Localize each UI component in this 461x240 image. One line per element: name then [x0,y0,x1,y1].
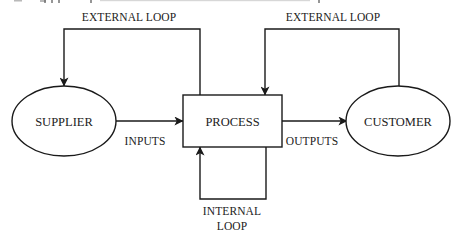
external-loop-left-arrow [64,29,200,95]
customer-label: CUSTOMER [364,115,433,129]
outputs-label: OUTPUTS [286,135,338,147]
external-loop-left: EXTERNAL LOOP [64,11,200,95]
internal-loop-label-line1: INTERNAL [203,205,261,217]
customer-node: CUSTOMER [346,86,450,156]
process-flow-diagram: EXTERNAL LOOP EXTERNAL LOOP SUPPLIER INP… [0,0,461,240]
internal-loop: INTERNAL LOOP [200,147,266,232]
inputs-edge: INPUTS [116,121,183,147]
external-loop-right: EXTERNAL LOOP [265,11,399,95]
process-node: PROCESS [183,95,282,147]
outputs-edge: OUTPUTS [282,121,347,147]
inputs-label: INPUTS [125,135,166,147]
internal-loop-label-line2: LOOP [217,220,247,232]
clipped-caption-fragment [14,0,320,3]
diagram-canvas: EXTERNAL LOOP EXTERNAL LOOP SUPPLIER INP… [0,0,461,240]
external-loop-right-label: EXTERNAL LOOP [286,11,380,23]
supplier-node: SUPPLIER [12,86,116,156]
external-loop-left-label: EXTERNAL LOOP [82,11,176,23]
supplier-label: SUPPLIER [35,115,93,129]
external-loop-right-arrow [265,29,399,95]
internal-loop-arrow [200,147,266,199]
process-label: PROCESS [205,115,259,129]
